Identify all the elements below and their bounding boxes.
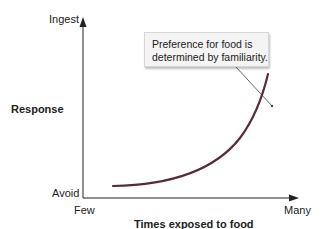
callout-line-1: Preference for food is	[152, 38, 268, 51]
y-axis-arrow-icon	[80, 17, 87, 27]
y-axis-title: Response	[11, 104, 64, 115]
y-tick-avoid: Avoid	[52, 188, 79, 199]
x-tick-many: Many	[284, 205, 311, 216]
x-axis	[83, 195, 299, 202]
x-tick-few: Few	[74, 205, 95, 216]
callout-leader-dot	[271, 105, 273, 107]
y-axis	[80, 17, 87, 198]
callout-line-2: determined by familiarity.	[152, 51, 268, 64]
callout-box: Preference for food is determined by fam…	[144, 32, 269, 67]
x-axis-arrow-icon	[289, 195, 299, 202]
y-tick-ingest: Ingest	[49, 14, 79, 25]
x-axis-title: Times exposed to food	[134, 219, 254, 229]
preference-curve	[113, 74, 268, 186]
callout-leader-line	[236, 67, 272, 106]
